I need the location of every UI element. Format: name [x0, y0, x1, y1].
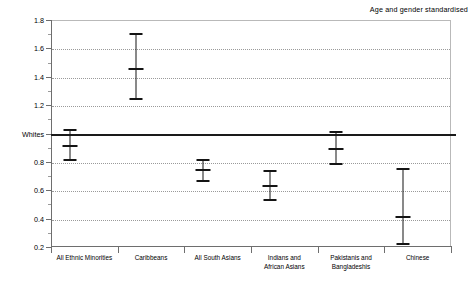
x-axis-tick [118, 247, 119, 253]
y-axis-tick-label: 0.4 [0, 214, 44, 223]
gridline [52, 49, 450, 50]
error-bar-lower-cap [130, 98, 143, 100]
x-axis-category-label: Pakistanis and Bangladeshis [330, 254, 372, 271]
y-axis-tick-label: Whites [0, 129, 44, 138]
x-axis-category-label: Caribbeans [135, 254, 168, 263]
y-axis-tick-label: 1.8 [0, 16, 44, 25]
y-axis-tick-label: 1.2 [0, 101, 44, 110]
x-axis-tick [384, 247, 385, 253]
error-bar-lower-cap [63, 159, 76, 161]
x-axis-category-label: Indians and African Asians [264, 254, 305, 271]
error-bar-upper-cap [397, 168, 410, 170]
gridline [52, 106, 450, 107]
error-bar-upper-cap [63, 129, 76, 131]
y-axis-tick-label: 0.2 [0, 243, 44, 252]
data-point [329, 148, 344, 150]
x-axis-tick [251, 247, 252, 253]
x-axis-category-label: Chinese [406, 254, 429, 263]
chart-annotation: Age and gender standardised [370, 5, 468, 14]
gridline [52, 163, 450, 164]
chart-container: Age and gender standardised 1.81.61.41.2… [0, 0, 476, 282]
x-axis-tick [318, 247, 319, 253]
data-point [262, 185, 277, 187]
x-axis-tick [184, 247, 185, 253]
x-axis-tick [51, 247, 52, 253]
error-bar-lower-cap [397, 243, 410, 245]
gridline [52, 78, 450, 79]
gridline [52, 220, 450, 221]
error-bar-lower-cap [263, 199, 276, 201]
x-axis-tick [451, 247, 452, 253]
error-bar-upper-cap [197, 159, 210, 161]
data-point [62, 145, 77, 147]
x-axis-category-label: All South Asians [195, 254, 241, 263]
y-axis-tick-label: 1.4 [0, 72, 44, 81]
error-bar-upper-cap [130, 33, 143, 35]
y-axis-tick-label: 0.8 [0, 157, 44, 166]
reference-line [51, 134, 456, 136]
error-bar-lower-cap [330, 163, 343, 165]
data-point [396, 216, 411, 218]
error-bar-stem [136, 33, 137, 98]
data-point [196, 169, 211, 171]
error-bar-upper-cap [263, 170, 276, 172]
y-axis-tick-label: 1.6 [0, 44, 44, 53]
x-axis-category-label: All Ethnic Minorities [56, 254, 112, 263]
error-bar-lower-cap [197, 180, 210, 182]
error-bar-stem [403, 168, 404, 243]
data-point [129, 68, 144, 70]
error-bar-upper-cap [330, 131, 343, 133]
y-axis-tick-label: 0.6 [0, 186, 44, 195]
gridline [52, 191, 450, 192]
